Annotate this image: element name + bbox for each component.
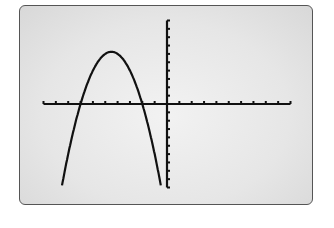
graph-plot: [0, 0, 334, 228]
parabola-curve: [62, 52, 161, 186]
